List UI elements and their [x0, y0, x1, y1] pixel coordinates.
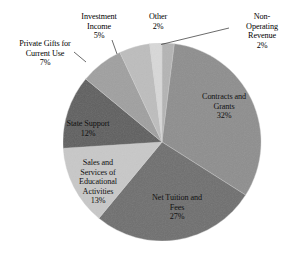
slice-label-net-tuition-and-fees: Net Tuition and Fees 27% — [136, 193, 218, 222]
slice-label-investment-income: Investment Income 5% — [68, 12, 130, 41]
slice-label-sales-and-services-of-educational-activities: Sales and Services of Educational Activi… — [62, 158, 134, 206]
slice-label-contracts-and-grants: Contracts and Grants 32% — [188, 92, 260, 121]
slice-label-state-support: State Support 12% — [49, 119, 127, 138]
slice-label-private-gifts-for-current-use: Private Gifts for Current Use 7% — [2, 39, 88, 68]
slice-label-non-operating-revenue: Non- Operating Revenue 2% — [231, 12, 293, 50]
slice-label-other: Other 2% — [136, 12, 180, 31]
pie-chart: Private Gifts for Current Use 7% Investm… — [0, 0, 294, 257]
leader-line-investment-income — [112, 40, 117, 54]
